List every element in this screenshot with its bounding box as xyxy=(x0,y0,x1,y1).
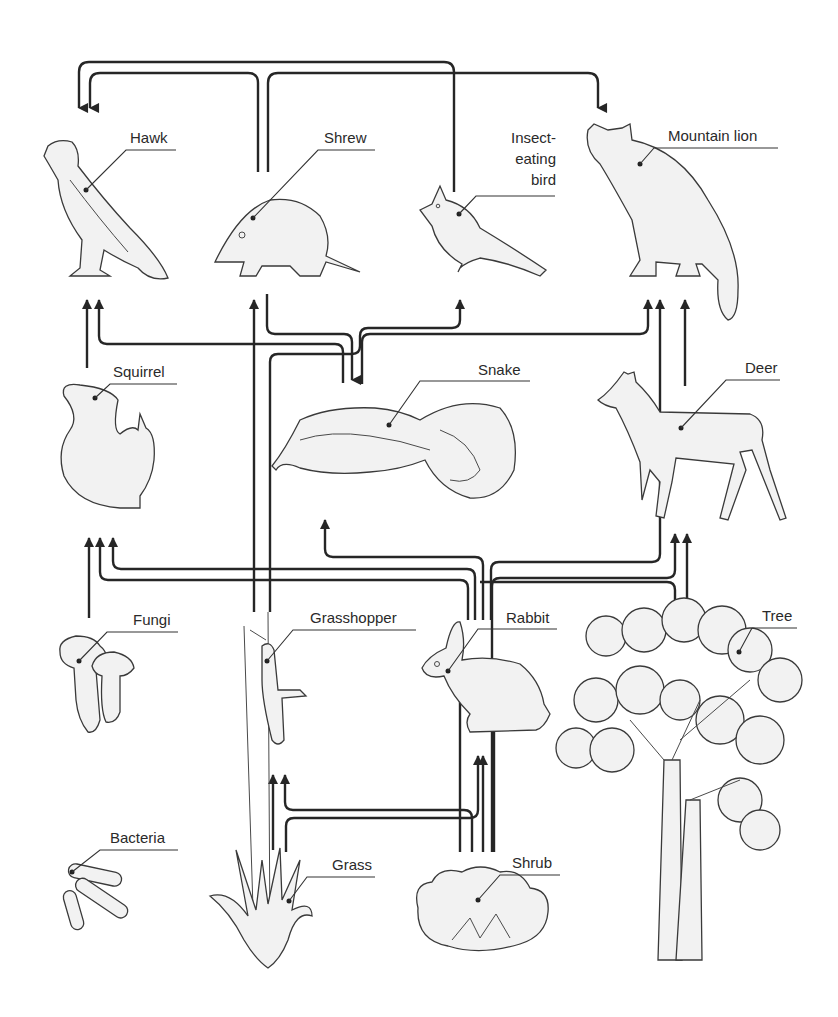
grass-icon xyxy=(210,848,312,968)
tree-icon xyxy=(556,598,802,960)
shrew-icon xyxy=(215,199,360,276)
insect-bird-label-1: Insect- xyxy=(500,128,556,147)
fungi-icon xyxy=(60,636,134,732)
shrub-icon xyxy=(417,867,549,951)
grasshopper-label: Grasshopper xyxy=(310,608,397,627)
shrew-label: Shrew xyxy=(324,128,367,147)
bacteria-label: Bacteria xyxy=(110,828,165,847)
fungi-label: Fungi xyxy=(133,610,171,629)
arrow-tree-to-squirrel-link xyxy=(480,582,675,600)
hawk-label: Hawk xyxy=(130,128,168,147)
insect-bird-label-3: bird xyxy=(500,170,556,189)
grass-label: Grass xyxy=(332,855,372,874)
arrow-grass-to-rabbit xyxy=(286,756,478,852)
arrow-shrub-to-squirrel xyxy=(100,538,468,620)
arrow-rabbit-to-mountain-lion xyxy=(491,300,660,620)
mountain-lion-label: Mountain lion xyxy=(668,126,757,145)
mountain-lion-icon xyxy=(587,124,738,320)
arrow-shrew-to-hawk xyxy=(90,73,258,172)
rabbit-icon xyxy=(422,622,550,732)
arrow-shrew-to-snake xyxy=(267,294,352,380)
food-web-diagram xyxy=(0,0,838,1017)
arrow-shrub-to-grasshopper xyxy=(285,775,472,852)
squirrel-label: Squirrel xyxy=(113,362,165,381)
bacteria-icon xyxy=(62,863,131,932)
snake-label: Snake xyxy=(478,360,521,379)
tree-label: Tree xyxy=(762,606,792,625)
insect-bird-label-2: eating xyxy=(500,149,556,168)
bird-icon xyxy=(420,186,546,276)
hawk-icon xyxy=(44,141,168,279)
shrub-label: Shrub xyxy=(512,853,552,872)
rabbit-label: Rabbit xyxy=(506,608,549,627)
deer-label: Deer xyxy=(745,358,778,377)
deer-icon xyxy=(598,372,786,520)
arrow-bird-to-hawk xyxy=(79,62,454,192)
squirrel-icon xyxy=(61,384,154,508)
